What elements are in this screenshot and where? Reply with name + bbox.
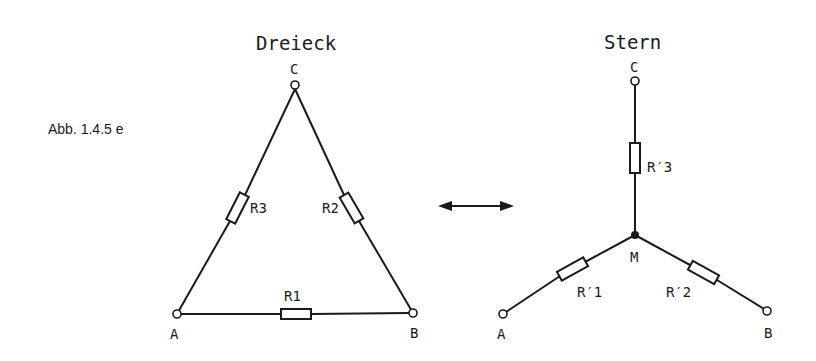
resistor-r2-body: [340, 193, 364, 224]
star-r2-label: R′2: [666, 285, 691, 299]
delta-r3-label: R3: [250, 201, 267, 215]
circuit-drawing: [0, 0, 816, 361]
delta-r2-label: R2: [322, 201, 339, 215]
star-r3-label: R′3: [647, 160, 672, 174]
delta-network: [177, 89, 413, 314]
resistor-r3-prime-body: [630, 143, 640, 173]
arrow-head-right-icon: [500, 201, 514, 211]
delta-terminal-a: [173, 310, 181, 318]
delta-terminal-c: [291, 81, 299, 89]
delta-title: Dreieck: [256, 34, 336, 53]
delta-terminal-b: [409, 309, 417, 317]
star-node-b-label: B: [764, 326, 772, 340]
resistor-r1-body: [281, 309, 311, 319]
star-terminal-a: [499, 310, 507, 318]
star-terminal-b: [763, 307, 771, 315]
resistor-r2-prime-body: [688, 261, 719, 284]
star-r1-label: R′1: [577, 285, 602, 299]
delta-node-a-label: A: [170, 327, 178, 341]
star-node-m-label: M: [630, 250, 638, 264]
star-center-node: [631, 231, 639, 239]
delta-node-b-label: B: [410, 326, 418, 340]
star-terminal-c: [631, 77, 639, 85]
star-title: Stern: [604, 33, 661, 52]
delta-r1-label: R1: [284, 289, 301, 303]
arrow-head-left-icon: [438, 201, 452, 211]
star-node-c-label: C: [630, 60, 638, 74]
resistor-r3-body: [226, 192, 249, 223]
star-node-a-label: A: [497, 327, 505, 341]
figure-caption: Abb. 1.4.5 e: [48, 121, 124, 137]
star-network: [506, 85, 764, 312]
delta-node-c-label: C: [290, 62, 298, 76]
resistor-r1-prime-body: [557, 257, 588, 280]
diagram-canvas: Abb. 1.4.5 e Dreieck C A B R3 R2 R1 Ster…: [0, 0, 816, 361]
